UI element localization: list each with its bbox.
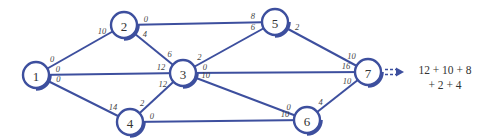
edge-label-1-3-start: 0	[56, 64, 61, 74]
edge-label-2-5-start: 0	[144, 14, 149, 24]
edge-label-5-7-end: 10	[347, 51, 356, 61]
edge-label-1-2-start: 0	[50, 54, 55, 64]
edge-label-3-5-end: 6	[251, 22, 256, 32]
edge-label-4-3-end: 12	[159, 79, 168, 89]
node-1: 1	[23, 62, 51, 90]
edge-label-1-3-end: 12	[157, 62, 166, 72]
formula-line-2: + 2 + 4	[404, 78, 486, 93]
edge-label-1-2-end: 10	[98, 26, 107, 36]
node-label-7: 7	[365, 66, 372, 81]
edge-3-5	[183, 22, 275, 73]
edge-label-1-4-end: 14	[109, 102, 118, 112]
edge-label-2-5-end: 8	[251, 11, 256, 21]
node-2: 2	[111, 12, 139, 40]
node-4: 4	[117, 109, 145, 137]
edge-label-1-4-start: 0	[56, 74, 61, 84]
formula-line-1: 12 + 10 + 8	[404, 63, 486, 78]
edge-label-6-7-start: 4	[318, 97, 323, 107]
edge-label-2-3-start: 4	[143, 29, 148, 39]
edge-label-4-6-end: 10	[281, 109, 290, 119]
output-arrow-icon	[385, 68, 404, 77]
edge-label-3-5-start: 2	[197, 52, 202, 62]
edge-label-4-3-start: 2	[140, 98, 145, 108]
edge-1-2	[36, 25, 124, 75]
node-label-1: 1	[33, 69, 40, 84]
node-5: 5	[262, 9, 290, 37]
node-3: 3	[170, 60, 198, 88]
edge-4-6	[130, 120, 307, 122]
node-7: 7	[355, 59, 383, 87]
edge-label-5-7-start: 2	[295, 22, 300, 32]
edge-3-7	[183, 72, 368, 73]
sum-formula: 12 + 10 + 8 + 2 + 4	[404, 63, 486, 93]
node-label-6: 6	[304, 114, 311, 129]
edge-label-2-3-end: 6	[168, 49, 173, 59]
node-label-3: 3	[180, 67, 187, 82]
node-label-2: 2	[121, 19, 128, 34]
edge-label-4-6-start: 0	[150, 111, 155, 121]
node-label-5: 5	[272, 16, 279, 31]
edge-label-3-6-start: 10	[201, 70, 210, 80]
node-6: 6	[294, 107, 322, 135]
edge-label-6-7-end: 10	[343, 76, 352, 86]
edge-label-3-7-end: 16	[342, 61, 351, 71]
node-label-4: 4	[127, 116, 134, 131]
